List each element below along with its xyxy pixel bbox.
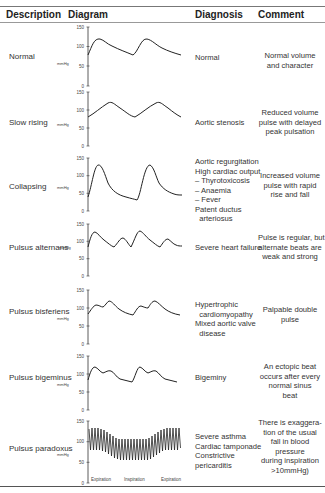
svg-text:100: 100 [76, 173, 84, 178]
expiration-label: Expiration [161, 477, 182, 482]
y-axis: 150100500 [76, 354, 89, 413]
svg-text:0: 0 [81, 481, 84, 486]
svg-text:100: 100 [76, 44, 84, 49]
pulse-waveform [88, 39, 181, 55]
row-comment: Reduced volume pulse with delayed peak p… [258, 108, 322, 137]
axis-unit: mmHg [57, 122, 69, 127]
svg-text:150: 150 [76, 90, 84, 95]
svg-text:100: 100 [76, 372, 84, 377]
row-comment: There is exaggera- tion of the usual fal… [258, 418, 322, 475]
row-comment: Normal volume and character [258, 51, 322, 70]
inspiration-label: Inspiration [124, 477, 145, 482]
svg-text:150: 150 [76, 222, 84, 227]
chart-pulsus-paradoxus: 150100500 Expiration Inspiration Expirat… [68, 418, 198, 488]
pulse-waveform [88, 231, 182, 247]
bottom-rule [0, 486, 325, 487]
y-axis: 150100500 [76, 222, 89, 279]
svg-text:100: 100 [76, 439, 84, 444]
svg-text:0: 0 [81, 342, 84, 347]
row-diagnosis: Normal [195, 53, 219, 63]
row-diagnosis: Hypertrophic cardiomyopathy Mixed aortic… [195, 300, 256, 338]
svg-text:50: 50 [79, 64, 85, 69]
y-axis: 150100500 [76, 25, 89, 89]
row-comment: Palpable double pulse [258, 305, 322, 324]
header-diagram: Diagram [68, 9, 108, 20]
y-axis: 150100500 [76, 419, 89, 486]
chart-collapsing: 150100500 [68, 155, 198, 221]
header-description: Description [6, 9, 61, 20]
top-rule [0, 6, 325, 7]
row-comment: Increased volume pulse with rapid rise a… [258, 171, 322, 200]
row-diagnosis: Aortic stenosis [195, 118, 244, 128]
header-rule [0, 22, 325, 23]
y-axis: 150100500 [76, 156, 89, 214]
svg-text:150: 150 [76, 156, 84, 161]
axis-unit: mmHg [57, 452, 69, 457]
row-diagnosis: Aortic regurgitation High cardiac output… [195, 157, 260, 224]
row-diagnosis: Bigeminy [195, 373, 226, 383]
pulse-waveform [88, 165, 182, 200]
svg-text:100: 100 [76, 306, 84, 311]
svg-text:50: 50 [79, 191, 85, 196]
pulse-waveform [89, 428, 181, 460]
svg-text:0: 0 [81, 209, 84, 214]
svg-text:0: 0 [81, 274, 84, 279]
chart-slow-rising: 150100500 [68, 89, 198, 155]
pulse-waveform [88, 102, 181, 117]
row-diagnosis: Severe heart failure [195, 243, 261, 253]
row-comment: Pulse is regular, but alternate beats ar… [258, 233, 322, 262]
svg-text:100: 100 [76, 108, 84, 113]
expiration-label: Expiration [91, 477, 112, 482]
pulse-waveform [88, 301, 180, 315]
header-comment: Comment [258, 9, 304, 20]
chart-normal: 150100500 [68, 24, 198, 90]
chart-pulsus-bigeminus: 150100500 [68, 353, 198, 419]
svg-text:150: 150 [76, 288, 84, 293]
svg-text:150: 150 [76, 25, 84, 30]
svg-text:150: 150 [76, 354, 84, 359]
header-diagnosis: Diagnosis [195, 9, 243, 20]
svg-text:150: 150 [76, 419, 84, 424]
pulse-waveform [88, 367, 177, 382]
chart-pulsus-alternans: 150100500 [68, 221, 198, 287]
svg-text:50: 50 [79, 390, 85, 395]
svg-text:100: 100 [76, 239, 84, 244]
svg-text:0: 0 [81, 144, 84, 149]
svg-text:50: 50 [79, 324, 85, 329]
axis-unit: mmHg [57, 382, 69, 387]
svg-text:50: 50 [79, 126, 85, 131]
axis-unit: mmHg [57, 61, 69, 66]
row-description: Collapsing [9, 182, 46, 192]
axis-unit: mmHg [57, 316, 69, 321]
row-description: Normal [9, 52, 35, 62]
row-description: Slow rising [9, 118, 48, 128]
axis-unit: mmHg [57, 185, 69, 190]
svg-text:50: 50 [79, 460, 85, 465]
svg-text:50: 50 [79, 256, 85, 261]
chart-pulsus-bisferiens: 150100500 [68, 287, 198, 353]
y-axis: 150100500 [76, 288, 89, 347]
svg-text:0: 0 [81, 408, 84, 413]
row-comment: An ectopic beat occurs after every norma… [258, 362, 322, 400]
y-axis: 150100500 [76, 90, 89, 149]
row-diagnosis: Severe asthma Cardiac tamponade Constric… [195, 432, 261, 470]
svg-text:0: 0 [81, 84, 84, 89]
